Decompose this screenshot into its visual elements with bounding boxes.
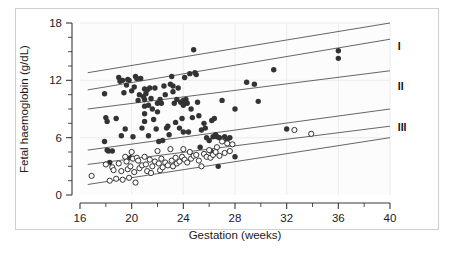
filled-data-point (232, 106, 237, 111)
filled-data-point (185, 101, 190, 106)
open-data-point (222, 150, 227, 155)
filled-data-point (154, 126, 159, 131)
filled-data-point (336, 48, 341, 53)
filled-data-point (126, 78, 131, 83)
figure-frame: 06121816202428323640Gestation (weeks)Fet… (0, 0, 471, 254)
filled-data-point (336, 56, 341, 61)
open-data-point (292, 127, 297, 132)
filled-data-point (150, 106, 155, 111)
open-data-point (225, 141, 230, 146)
filled-data-point (104, 119, 109, 124)
filled-data-point (170, 89, 175, 94)
zone-label-II: II (398, 80, 404, 92)
filled-data-point (113, 116, 118, 121)
filled-data-point (102, 91, 107, 96)
filled-data-point (244, 80, 249, 85)
open-data-point (168, 147, 173, 152)
filled-data-point (169, 74, 174, 79)
filled-data-point (119, 133, 124, 138)
open-data-point (107, 178, 112, 183)
filled-data-point (142, 97, 147, 102)
filled-data-point (121, 90, 126, 95)
filled-data-point (197, 145, 202, 150)
filled-data-point (123, 126, 128, 131)
filled-data-point (142, 119, 147, 124)
filled-data-point (173, 120, 178, 125)
open-data-point (116, 161, 121, 166)
open-data-point (207, 147, 212, 152)
open-data-point (136, 158, 141, 163)
open-data-point (119, 169, 124, 174)
y-axis-ticks: 061218 (49, 17, 72, 201)
filled-data-point (102, 139, 107, 144)
scatter-chart: 06121816202428323640Gestation (weeks)Fet… (0, 0, 471, 254)
x-tick-label: 36 (332, 212, 345, 224)
open-data-point (111, 168, 116, 173)
filled-data-point (124, 82, 129, 87)
filled-data-point (138, 76, 143, 81)
filled-data-point (186, 129, 191, 134)
filled-data-point (177, 125, 182, 130)
zone-labels: IIIIII (398, 40, 407, 133)
open-data-point (114, 176, 119, 181)
y-tick-label: 0 (56, 189, 62, 201)
open-data-point (219, 139, 224, 144)
open-data-point (120, 177, 125, 182)
filled-data-point (188, 106, 193, 111)
open-data-point (128, 164, 133, 169)
zone-label-I: I (398, 40, 401, 52)
filled-data-point (139, 125, 144, 130)
open-data-point (230, 142, 235, 147)
open-data-point (309, 131, 314, 136)
open-data-point (194, 152, 199, 157)
open-data-point (227, 148, 232, 153)
filled-data-point (151, 117, 156, 122)
open-data-point (129, 149, 134, 154)
filled-data-point (148, 96, 153, 101)
open-data-point (199, 164, 204, 169)
filled-data-point (195, 100, 200, 105)
filled-data-point (194, 72, 199, 77)
filled-data-point (284, 126, 289, 131)
open-data-point (165, 163, 170, 168)
filled-data-point (271, 67, 276, 72)
x-tick-label: 16 (74, 212, 87, 224)
filled-data-point (160, 138, 165, 143)
filled-data-point (152, 85, 157, 90)
x-tick-label: 28 (229, 212, 242, 224)
filled-data-point (206, 138, 211, 143)
x-axis-ticks: 16202428323640 (74, 203, 397, 224)
filled-data-point (110, 148, 115, 153)
filled-data-point (163, 92, 168, 97)
filled-data-point (196, 113, 201, 118)
open-data-point (142, 154, 147, 159)
filled-data-point (181, 129, 186, 134)
filled-data-point (165, 124, 170, 129)
filled-data-point (216, 164, 221, 169)
open-data-point (132, 169, 137, 174)
open-data-point (124, 159, 129, 164)
open-data-point (155, 148, 160, 153)
filled-data-point (146, 102, 151, 107)
filled-data-point (252, 81, 257, 86)
filled-data-point (227, 135, 232, 140)
open-data-point (148, 170, 153, 175)
filled-data-point (159, 101, 164, 106)
filled-data-point (166, 132, 171, 137)
zone-label-III: III (398, 121, 407, 133)
filled-data-point (146, 133, 151, 138)
open-data-point (133, 180, 138, 185)
open-data-point (147, 157, 152, 162)
filled-data-point (170, 83, 175, 88)
open-data-point (143, 162, 148, 167)
filled-data-point (155, 109, 160, 114)
filled-data-point (232, 154, 237, 159)
open-data-point (103, 162, 108, 167)
open-data-point (217, 153, 222, 158)
open-data-point (196, 158, 201, 163)
x-axis-title: Gestation (weeks) (189, 229, 282, 241)
open-data-point (89, 173, 94, 178)
filled-data-point (142, 111, 147, 116)
filled-data-point (256, 99, 261, 104)
y-axis-title: Fetal haemoglobin (g/dL) (18, 45, 30, 173)
